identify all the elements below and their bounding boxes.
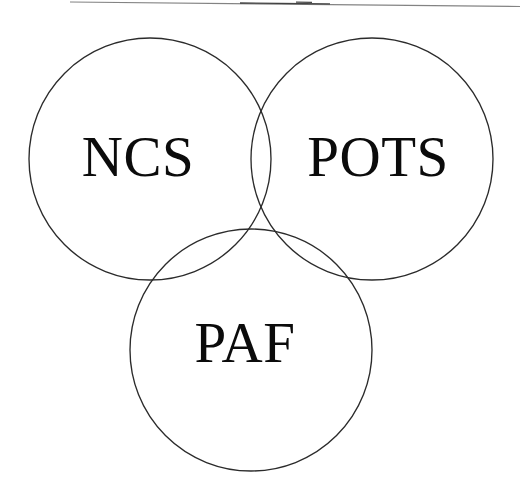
label-paf: PAF [195, 311, 296, 374]
label-ncs: NCS [82, 125, 194, 188]
venn-diagram-figure: NCS POTS PAF [0, 0, 520, 493]
figure-background [0, 0, 520, 493]
venn-diagram-canvas: NCS POTS PAF [0, 0, 520, 493]
label-pots: POTS [307, 125, 448, 188]
